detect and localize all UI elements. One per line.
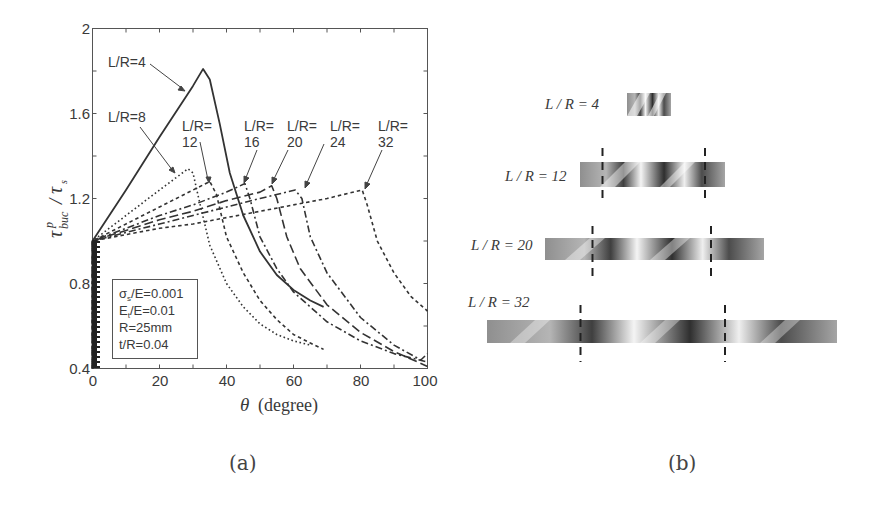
x-tick-100: 100 — [412, 372, 437, 389]
arrow-lr4 — [150, 64, 183, 89]
legend-line-3: R=25mm — [119, 320, 172, 335]
initial-drop-band — [92, 240, 97, 368]
cylinder-lr4: L / R = 4 — [544, 93, 671, 116]
caption-a: (a) — [229, 451, 257, 475]
x-label-unit: (degree) — [258, 395, 318, 416]
annotation-lr16-line2: 16 — [244, 134, 260, 150]
arrow-lr16 — [245, 150, 257, 180]
annotation-lr20-line2: 20 — [287, 134, 303, 150]
parameter-legend: σs/E=0.001 Et/E=0.01 R=25mm t/R=0.04 — [113, 280, 198, 359]
y-tick-labels: 0.4 0.8 1.2 1.6 2 — [69, 20, 90, 377]
x-tick-20: 20 — [152, 372, 169, 389]
y-tick-0-4: 0.4 — [69, 360, 90, 377]
annotation-lr16-line1: L/R= — [244, 118, 274, 134]
cylinder-label-lr12: L / R = 12 — [504, 168, 567, 184]
curve-annotations: L/R=4 L/R=8 L/R= 12 L/R= 16 L/R= 20 L/R=… — [108, 54, 408, 150]
arrow-lr24 — [306, 144, 324, 185]
annotation-lr24-line1: L/R= — [330, 118, 360, 134]
annotation-lr24-line2: 24 — [330, 134, 346, 150]
panel-a-chart: 0.4 0.8 1.2 1.6 2 0 20 40 60 80 100 θ (d… — [42, 20, 438, 416]
y-tick-1-6: 1.6 — [69, 105, 90, 122]
cylinder-label-lr4: L / R = 4 — [544, 96, 600, 112]
cylinder-label-lr20: L / R = 20 — [470, 237, 533, 253]
x-tick-40: 40 — [219, 372, 236, 389]
annotation-lr8: L/R=8 — [108, 109, 146, 125]
legend-line-4: t/R=0.04 — [119, 337, 169, 352]
y-label-sub: buc — [57, 211, 71, 229]
arrow-lr12 — [200, 142, 208, 180]
caption-b: (b) — [668, 451, 696, 475]
y-label-sup: p — [42, 222, 56, 229]
y-label-slash: / — [45, 197, 66, 205]
arrow-lr8 — [140, 127, 173, 171]
x-tick-80: 80 — [353, 372, 370, 389]
annotation-lr4: L/R=4 — [108, 54, 146, 70]
y-tick-0-8: 0.8 — [69, 275, 90, 292]
y-label-tau-s: τ — [44, 186, 66, 194]
cylinder-label-lr32: L / R = 32 — [467, 294, 530, 310]
y-label-tau: τ — [44, 230, 66, 238]
x-tick-labels: 0 20 40 60 80 100 — [89, 372, 438, 389]
annotation-lr32-line1: L/R= — [378, 118, 408, 134]
y-tick-1-2: 1.2 — [69, 190, 90, 207]
x-tick-0: 0 — [89, 372, 97, 389]
annotation-lr32-line2: 32 — [378, 134, 394, 150]
panel-b-cylinders: L / R = 4 L / R = 12 L / R = 20 L / R = … — [467, 93, 837, 362]
arrow-lr20 — [273, 150, 288, 181]
y-axis-label: τ p buc / τ s — [42, 180, 71, 238]
annotation-lr12-line2: 12 — [182, 134, 198, 150]
arrow-lr32 — [366, 150, 382, 186]
x-axis-label: θ (degree) — [240, 394, 318, 416]
y-label-den-sub: s — [58, 180, 69, 184]
annotation-lr12-line1: L/R= — [182, 118, 212, 134]
y-tick-2: 2 — [82, 20, 90, 37]
cylinder-lr32: L / R = 32 — [467, 294, 837, 362]
cylinder-lr12: L / R = 12 — [504, 148, 725, 202]
annotation-lr20-line1: L/R= — [287, 118, 317, 134]
legend-line-2: Et/E=0.01 — [119, 303, 175, 320]
cylinder-lr20: L / R = 20 — [470, 226, 764, 280]
x-label-theta: θ — [240, 394, 249, 415]
x-tick-60: 60 — [286, 372, 303, 389]
figure: 0.4 0.8 1.2 1.6 2 0 20 40 60 80 100 θ (d… — [0, 0, 871, 507]
